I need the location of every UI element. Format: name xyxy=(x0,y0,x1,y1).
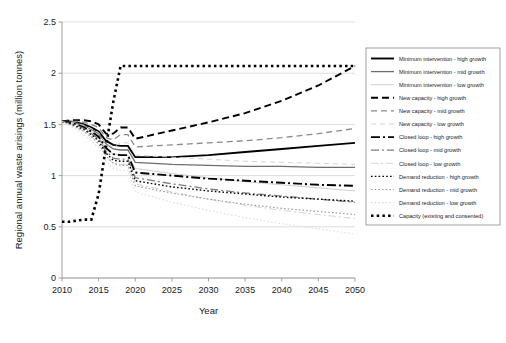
legend-item-label: Closed loop - mid growth xyxy=(399,147,461,153)
legend-item-label: New capacity - low growth xyxy=(399,121,464,127)
series-line-2 xyxy=(62,121,355,191)
y-tick-label: 1.5 xyxy=(43,120,56,130)
y-tick-label: 2.5 xyxy=(43,17,56,27)
data-series xyxy=(62,66,355,234)
x-tick-label: 2045 xyxy=(308,285,328,295)
legend-item-label: Closed loop - low growth xyxy=(399,161,460,167)
legend-item-label: Demand reduction - high growth xyxy=(399,174,479,180)
series-line-8 xyxy=(62,121,355,218)
y-tick-label: 0.5 xyxy=(43,222,56,232)
y-tick-label: 2 xyxy=(51,68,56,78)
legend-item-label: Minimum intervention - low growth xyxy=(399,82,484,88)
chart-legend[interactable]: Minimum intervention - high growthMinimu… xyxy=(366,48,500,225)
legend-item-label: Minimum intervention - mid growth xyxy=(399,69,485,75)
y-tick-label: 0 xyxy=(51,273,56,283)
legend-item-label: Capacity (existing and consented) xyxy=(399,213,483,219)
legend-item-label: New capacity - mid growth xyxy=(399,108,465,114)
x-tick-label: 2010 xyxy=(52,285,72,295)
x-tick-label: 2020 xyxy=(125,285,145,295)
series-line-10 xyxy=(62,121,355,214)
y-axis-title: Regional annual waste arisings (million … xyxy=(13,51,24,250)
x-tick-label: 2040 xyxy=(272,285,292,295)
x-tick-label: 2030 xyxy=(198,285,218,295)
x-tick-label: 2050 xyxy=(345,285,365,295)
x-tick-label: 2035 xyxy=(235,285,255,295)
waste-arisings-line-chart: 00.511.522.5 201020152020202520302035204… xyxy=(0,0,506,343)
legend-item-label: Minimum intervention - high growth xyxy=(399,56,486,62)
legend-item-label: New capacity - high growth xyxy=(399,95,466,101)
legend-item-label: Closed loop - high growth xyxy=(399,134,462,140)
legend-item-label: Demand reduction - mid growth xyxy=(399,187,477,193)
chart-container: 00.511.522.5 201020152020202520302035204… xyxy=(0,0,506,343)
y-axis-tick-labels: 00.511.522.5 xyxy=(43,17,56,283)
x-axis-title: Year xyxy=(199,305,218,316)
y-tick-label: 1 xyxy=(51,171,56,181)
legend-item-label: Demand reduction - low growth xyxy=(399,200,476,206)
x-axis-tick-labels: 201020152020202520302035204020452050 xyxy=(52,285,365,295)
series-line-3 xyxy=(62,66,355,139)
x-tick-label: 2015 xyxy=(89,285,109,295)
x-tick-label: 2025 xyxy=(162,285,182,295)
